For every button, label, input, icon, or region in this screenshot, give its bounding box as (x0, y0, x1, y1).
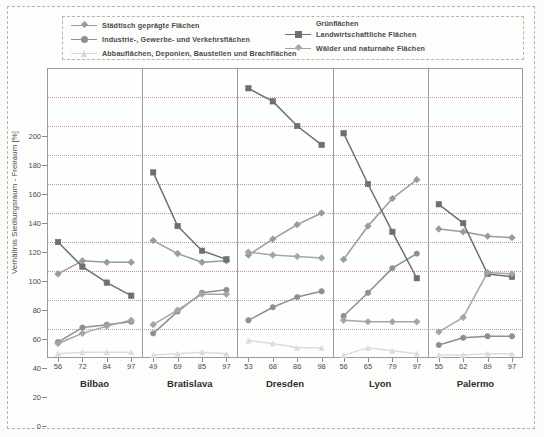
legend-marker-icon (71, 34, 97, 45)
y-axis-tick-label: 180 (7, 161, 41, 170)
y-axis-tick-label: 0 (7, 422, 41, 431)
legend-label: Landwirtschaftliche Flächen (316, 30, 417, 39)
legend-marker-icon (71, 48, 97, 59)
series-line (246, 338, 325, 350)
x-axis-tick-label: 79 (388, 362, 396, 371)
legend-label: Abbauflächen, Deponien, Baustellen und B… (102, 49, 297, 58)
x-axis-tick-label: 49 (149, 362, 157, 371)
series-line (435, 269, 515, 335)
y-axis-tick-label: 80 (7, 306, 41, 315)
x-axis-tick-label: 56 (339, 362, 347, 371)
legend-item-left-1: Industrie-, Gewerbe- und Verkehrsflächen (71, 33, 297, 45)
series-line (55, 317, 135, 347)
legend-item-left-2: Abbauflächen, Deponien, Baustellen und B… (71, 47, 297, 59)
x-axis-tick-label: 97 (127, 362, 135, 371)
legend-column-right: Grünflächen Landwirtschaftliche FlächenW… (285, 19, 425, 56)
legend-marker-icon (285, 43, 311, 54)
legend-column-left: Städtisch geprägte FlächenIndustrie-, Ge… (71, 19, 297, 61)
x-axis-tick-label: 69 (173, 362, 181, 371)
y-axis-tick-label: 100 (7, 277, 41, 286)
panel-bratislava (150, 170, 230, 358)
series-line (150, 237, 230, 265)
city-label-dresden: Dresden (266, 378, 304, 389)
series-line (436, 202, 515, 280)
x-axis-tick-label: 97 (413, 362, 421, 371)
x-axis-tick-label: 85 (198, 362, 206, 371)
legend-item-right-1: Wälder und naturnahe Flächen (285, 42, 425, 54)
chart-legend: Städtisch geprägte FlächenIndustrie-, Ge… (62, 16, 524, 60)
series-line (245, 210, 325, 259)
legend-item-right-0: Landwirtschaftliche Flächen (285, 28, 425, 40)
x-axis-tick-label: 65 (364, 362, 372, 371)
x-axis-tick-label: 68 (269, 362, 277, 371)
legend-label: Wälder und naturnahe Flächen (316, 44, 425, 53)
y-axis-tick-mark (42, 426, 47, 427)
x-axis: 5672849749698597536886985665799755628997… (47, 358, 523, 403)
city-label-lyon: Lyon (369, 378, 391, 389)
x-axis-tick-label: 84 (103, 362, 111, 371)
series-line (341, 345, 420, 357)
y-axis-tick-label: 40 (7, 364, 41, 373)
legend-heading-gruenflaechen: Grünflächen (285, 19, 425, 28)
legend-item-left-0: Städtisch geprägte Flächen (71, 19, 297, 31)
chart-screenshot: Städtisch geprägte FlächenIndustrie-, Ge… (0, 0, 544, 437)
x-axis-tick-label: 86 (293, 362, 301, 371)
city-label-bratislava: Bratislava (167, 378, 212, 389)
legend-label: Industrie-, Gewerbe- und Verkehrsflächen (102, 35, 250, 44)
series-line (151, 170, 230, 262)
x-axis-tick-label: 89 (483, 362, 491, 371)
x-axis-tick-label: 62 (459, 362, 467, 371)
plot-area (47, 68, 523, 358)
series-lines (47, 68, 523, 358)
y-axis-tick-label: 140 (7, 219, 41, 228)
y-axis-tick-label: 160 (7, 190, 41, 199)
legend-marker-icon (71, 20, 97, 31)
panel-dresden (245, 86, 325, 351)
y-axis-tick-label: 120 (7, 248, 41, 257)
series-line (246, 289, 325, 323)
series-line (340, 176, 420, 262)
x-axis-tick-label: 97 (508, 362, 516, 371)
series-line (151, 350, 230, 358)
series-line (55, 350, 134, 357)
series-line (436, 334, 515, 348)
x-axis-tick-label: 98 (317, 362, 325, 371)
series-line (246, 86, 325, 148)
x-axis-tick-label: 53 (244, 362, 252, 371)
series-line (435, 226, 515, 241)
y-axis-tick-label: 20 (7, 393, 41, 402)
x-axis-tick-label: 97 (222, 362, 230, 371)
x-axis-tick-label: 55 (435, 362, 443, 371)
panel-lyon (340, 131, 420, 358)
panel-bilbao (55, 239, 135, 356)
y-axis-tick-label: 200 (7, 132, 41, 141)
x-axis-tick-label: 56 (54, 362, 62, 371)
city-label-palermo: Palermo (457, 378, 495, 389)
y-axis: Verhältnis Siedlungsraum - Freiraum [%] … (0, 68, 47, 358)
x-axis-tick-label: 72 (78, 362, 86, 371)
series-line (436, 351, 515, 358)
legend-marker-icon (285, 29, 311, 40)
panel-palermo (435, 202, 515, 358)
series-line (245, 249, 325, 261)
city-label-bilbao: Bilbao (80, 378, 109, 389)
y-axis-tick-label: 60 (7, 335, 41, 344)
legend-label: Städtisch geprägte Flächen (102, 21, 200, 30)
series-line (340, 317, 420, 325)
series-line (150, 291, 230, 328)
